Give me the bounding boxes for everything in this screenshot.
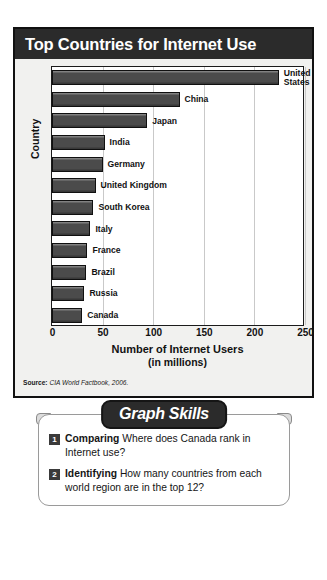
bar-row: Russia [52, 283, 303, 305]
bar-canada [52, 308, 82, 323]
x-tick-150: 150 [196, 327, 213, 338]
x-tick-100: 100 [145, 327, 162, 338]
x-tick-50: 50 [98, 327, 109, 338]
bar-label: China [185, 95, 209, 104]
x-tick-0: 0 [50, 327, 56, 338]
question-number-badge: 1 [49, 434, 60, 445]
bar-united-kingdom [52, 178, 96, 193]
question-number-badge: 2 [49, 469, 60, 480]
question-item: 1Comparing Where does Canada rank in Int… [49, 432, 277, 459]
x-axis-label: Number of Internet Users (in millions) [51, 343, 304, 368]
bar-row: Italy [52, 218, 303, 240]
bar-france [52, 243, 87, 258]
gridline-250 [305, 67, 306, 325]
bar-row: Japan [52, 110, 303, 132]
bar-row: France [52, 240, 303, 262]
source-note: Source: CIA World Factbook, 2006. [23, 379, 128, 386]
question-item: 2Identifying How many countries from eac… [49, 467, 277, 494]
graph-skills-banner: Graph Skills [101, 400, 227, 429]
bar-row: China [52, 89, 303, 111]
bar-india [52, 135, 105, 150]
bar-south-korea [52, 200, 93, 215]
bar-china [52, 92, 180, 107]
y-axis-label: Country [29, 119, 41, 159]
bar-row: United Kingdom [52, 175, 303, 197]
bar-label: Germany [108, 160, 145, 169]
bar-label: Russia [89, 289, 117, 298]
bar-russia [52, 286, 84, 301]
figure-title: Top Countries for Internet Use [25, 35, 256, 54]
bar-label: India [110, 138, 130, 147]
bar-germany [52, 157, 103, 172]
bar-united-states [52, 70, 279, 85]
bar-italy [52, 221, 90, 236]
question-skill-term: Comparing [65, 433, 119, 444]
bar-label: South Korea [98, 203, 149, 212]
bar-series: United StatesChinaJapanIndiaGermanyUnite… [52, 67, 303, 325]
plot-area: United StatesChinaJapanIndiaGermanyUnite… [51, 66, 304, 326]
x-axis-label-units: (in millions) [51, 356, 304, 368]
x-tick-250: 250 [297, 327, 314, 338]
bar-label: Brazil [91, 268, 114, 277]
bar-label: Canada [87, 311, 118, 320]
bar-row: India [52, 132, 303, 154]
chart-body: Country United StatesChinaJapanIndiaGerm… [15, 59, 312, 400]
question-skill-term: Identifying [65, 468, 117, 479]
x-tick-200: 200 [247, 327, 264, 338]
bar-label: United Kingdom [101, 181, 167, 190]
bar-row: United States [52, 67, 303, 89]
bar-label: France [92, 246, 120, 255]
figure-container: Top Countries for Internet Use Country U… [13, 27, 314, 398]
bar-brazil [52, 265, 86, 280]
question-text: Comparing Where does Canada rank in Inte… [65, 432, 277, 459]
bar-label: Japan [152, 117, 177, 126]
source-label: Source: [23, 379, 48, 386]
graph-skills-banner-label: Graph Skills [119, 405, 209, 422]
bar-row: Germany [52, 153, 303, 175]
bar-label: United States [284, 69, 311, 87]
bar-row: South Korea [52, 197, 303, 219]
x-axis-label-main: Number of Internet Users [51, 343, 304, 356]
bar-row: Brazil [52, 261, 303, 283]
bar-label: Italy [95, 225, 112, 234]
bar-row: Canada [52, 305, 303, 327]
question-text: Identifying How many countries from each… [65, 467, 277, 494]
source-text: CIA World Factbook, 2006. [49, 379, 128, 386]
figure-title-bar: Top Countries for Internet Use [15, 29, 312, 59]
x-axis-ticks: 050100150200250 [51, 327, 304, 340]
bar-japan [52, 113, 147, 128]
